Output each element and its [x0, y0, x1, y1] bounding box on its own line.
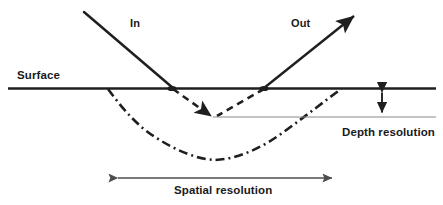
deep-interaction-volume-curve	[108, 89, 341, 160]
shallow-interaction-path-dashed	[173, 89, 264, 116]
beam-exit-point-marker	[259, 86, 268, 91]
label-depth-resolution: Depth resolution	[342, 127, 435, 139]
diagram-canvas	[0, 0, 443, 205]
label-spatial-resolution: Spatial resolution	[174, 185, 272, 197]
label-out: Out	[291, 18, 310, 29]
label-surface: Surface	[17, 70, 60, 82]
incoming-beam-line	[84, 12, 173, 88]
beam-resolution-diagram: In Out Surface Depth resolution Spatial …	[0, 0, 443, 205]
label-in: In	[130, 18, 140, 29]
beam-entry-point-marker	[167, 86, 176, 91]
